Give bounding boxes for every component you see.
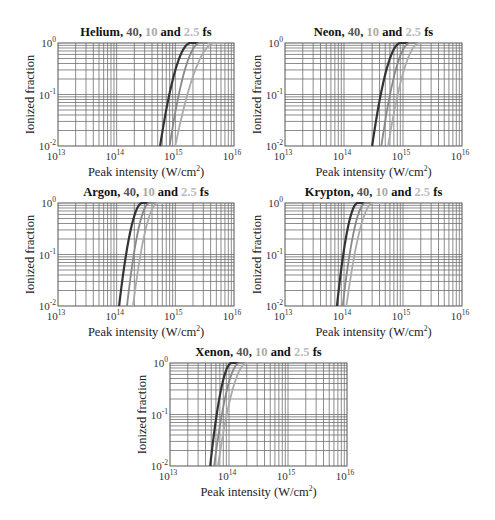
title-part: and <box>388 185 414 199</box>
tick-exponent: -1 <box>277 87 283 96</box>
tick-base: 10 <box>451 150 463 162</box>
tick-base: 10 <box>268 197 280 209</box>
y-tick-label: 10-1 <box>39 247 56 261</box>
title-part: and <box>379 25 405 39</box>
tick-base: 10 <box>164 150 176 162</box>
tick-exponent: 16 <box>234 148 242 157</box>
x-tick-label: 1016 <box>451 308 470 322</box>
tick-base: 10 <box>39 140 51 152</box>
title-part: 10 <box>367 25 380 39</box>
title-part: fs <box>430 185 442 199</box>
y-tick-label: 10-1 <box>151 407 168 421</box>
tick-base: 10 <box>392 150 404 162</box>
x-tick-label: 1014 <box>105 148 124 162</box>
panel-argon: Argon, 40, 10 and 2.5 fs1013101410151016… <box>23 185 242 339</box>
title-part: and <box>268 345 294 359</box>
x-tick-label: 1015 <box>164 148 183 162</box>
tick-exponent: 14 <box>344 308 352 317</box>
x-tick-label: 1016 <box>336 468 355 482</box>
x-axis-label-text: ) <box>427 325 431 339</box>
tick-exponent: 16 <box>234 308 242 317</box>
tick-exponent: 0 <box>52 35 56 44</box>
y-axis-label: Ionized fraction <box>23 54 37 134</box>
y-axis-label: Ionized fraction <box>250 54 264 134</box>
x-axis-label-text: ) <box>200 325 204 339</box>
y-axis-label: Ionized fraction <box>23 214 37 294</box>
title-part: and <box>157 25 183 39</box>
x-tick-label: 1015 <box>164 308 183 322</box>
title-part: 40 <box>123 185 136 199</box>
tick-base: 10 <box>333 310 345 322</box>
y-axis-label: Ionized fraction <box>135 374 149 454</box>
tick-base: 10 <box>39 300 51 312</box>
y-tick-label: 10-1 <box>266 247 283 261</box>
title-part: 2.5 <box>405 25 421 39</box>
grid <box>58 43 234 146</box>
tick-exponent: 16 <box>462 308 470 317</box>
title-part: fs <box>310 345 322 359</box>
tick-base: 10 <box>41 37 53 49</box>
tick-base: 10 <box>105 150 117 162</box>
tick-exponent: 13 <box>58 308 66 317</box>
title-part: 40 <box>126 25 139 39</box>
y-tick-label: 100 <box>41 35 56 49</box>
x-axis-label: Peak intensity (W/cm2) <box>88 164 204 179</box>
title-part: 10 <box>376 185 389 199</box>
title-part: 40 <box>357 185 370 199</box>
tick-base: 10 <box>151 409 163 421</box>
tick-exponent: 0 <box>52 195 56 204</box>
x-axis-label-text: Peak intensity (W/cm <box>88 325 197 339</box>
title-part: 2.5 <box>181 185 197 199</box>
x-axis-label-text: ) <box>427 165 431 179</box>
x-tick-label: 1016 <box>451 148 470 162</box>
tick-base: 10 <box>336 470 348 482</box>
tick-base: 10 <box>333 150 345 162</box>
tick-base: 10 <box>451 310 463 322</box>
tick-exponent: 14 <box>344 148 352 157</box>
tick-exponent: 13 <box>170 468 178 477</box>
y-tick-label: 100 <box>41 195 56 209</box>
tick-exponent: 13 <box>285 308 293 317</box>
tick-exponent: 16 <box>462 148 470 157</box>
x-tick-label: 1015 <box>392 148 411 162</box>
tick-exponent: -1 <box>277 247 283 256</box>
title-part: and <box>155 185 181 199</box>
x-tick-label: 1016 <box>223 308 242 322</box>
panel-krypton: Krypton, 40, 10 and 2.5 fs10131014101510… <box>250 185 470 339</box>
x-tick-label: 1015 <box>392 308 411 322</box>
tick-exponent: 16 <box>347 468 355 477</box>
tick-base: 10 <box>218 470 230 482</box>
x-axis-label: Peak intensity (W/cm2) <box>315 324 431 339</box>
tick-base: 10 <box>105 310 117 322</box>
chart-title: Helium, 40, 10 and 2.5 fs <box>80 25 211 39</box>
tick-base: 10 <box>153 357 165 369</box>
title-part: 10 <box>145 25 158 39</box>
tick-exponent: -2 <box>277 138 283 147</box>
y-axis-label: Ionized fraction <box>250 214 264 294</box>
title-part: Helium, <box>80 25 126 39</box>
x-axis-label: Peak intensity (W/cm2) <box>200 484 316 499</box>
tick-exponent: 0 <box>279 35 283 44</box>
title-part: 10 <box>255 345 268 359</box>
tick-base: 10 <box>223 150 235 162</box>
title-part: Argon, <box>83 185 123 199</box>
y-tick-label: 10-1 <box>39 87 56 101</box>
chart-title: Argon, 40, 10 and 2.5 fs <box>83 185 209 199</box>
tick-exponent: 14 <box>116 148 124 157</box>
x-tick-label: 1016 <box>223 148 242 162</box>
x-tick-label: 1014 <box>105 308 124 322</box>
y-tick-label: 100 <box>268 195 283 209</box>
x-tick-label: 1014 <box>333 148 352 162</box>
title-part: Xenon, <box>195 345 236 359</box>
title-part: fs <box>197 185 209 199</box>
y-tick-label: 10-1 <box>266 87 283 101</box>
x-axis-label-text: ) <box>200 165 204 179</box>
x-axis-label-text: Peak intensity (W/cm <box>200 485 309 499</box>
tick-base: 10 <box>39 89 51 101</box>
tick-base: 10 <box>39 249 51 261</box>
tick-base: 10 <box>41 197 53 209</box>
panel-neon: Neon, 40, 10 and 2.5 fs10131014101510161… <box>250 25 470 179</box>
tick-base: 10 <box>268 37 280 49</box>
tick-exponent: 13 <box>285 148 293 157</box>
tick-exponent: -2 <box>50 138 56 147</box>
